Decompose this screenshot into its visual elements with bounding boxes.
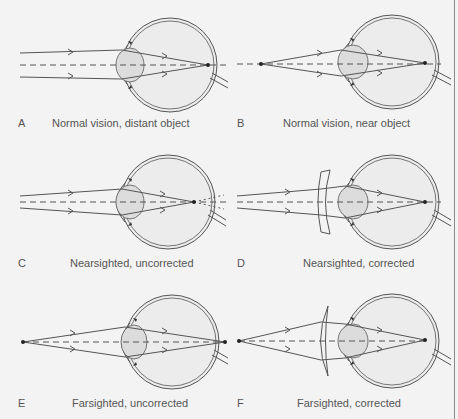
panel-letter: F [237, 397, 244, 409]
panel-caption: Normal vision, near object [283, 117, 410, 129]
panel-c-nearsighted-uncorrected: C Nearsighted, uncorrected [0, 140, 229, 280]
panel-b-normal-near: B Normal vision, near object [229, 0, 458, 140]
panel-caption: Farsighted, corrected [297, 397, 401, 409]
panel-letter: E [18, 397, 25, 409]
panel-f-farsighted-corrected: F Farsighted, corrected [229, 280, 458, 419]
panel-letter: A [18, 117, 25, 129]
panel-letter: C [18, 257, 26, 269]
panel-d-nearsighted-corrected: D Nearsighted, corrected [229, 140, 458, 280]
panel-caption: Normal vision, distant object [52, 117, 190, 129]
panel-letter: D [237, 257, 245, 269]
panel-caption: Nearsighted, uncorrected [70, 257, 194, 269]
panel-caption: Farsighted, uncorrected [72, 397, 188, 409]
panel-a-normal-distant: A Normal vision, distant object [0, 0, 229, 140]
panel-letter: B [237, 117, 244, 129]
panel-caption: Nearsighted, corrected [303, 257, 414, 269]
panel-e-farsighted-uncorrected: E Farsighted, uncorrected [0, 280, 229, 419]
